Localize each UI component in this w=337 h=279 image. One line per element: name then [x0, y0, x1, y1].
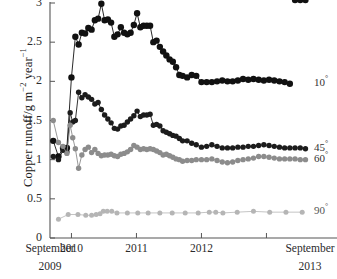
- data-point: [76, 90, 81, 95]
- data-point: [235, 144, 240, 149]
- data-point: [220, 210, 225, 215]
- data-point: [256, 143, 261, 148]
- degree-symbol-icon: °: [325, 150, 328, 159]
- data-point: [134, 10, 140, 16]
- x-tick-label-2012-3: 2012: [159, 242, 243, 254]
- data-point: [170, 59, 176, 65]
- data-point: [282, 145, 287, 150]
- data-point: [207, 210, 212, 215]
- x-tick-label-september-4: September: [268, 242, 337, 254]
- data-point: [204, 157, 209, 162]
- data-point: [214, 158, 219, 163]
- y-tick-label-2: 2: [14, 73, 42, 88]
- data-point: [50, 138, 56, 144]
- series-label-text-60: 60: [314, 152, 325, 164]
- data-point: [272, 144, 277, 149]
- y-tick-label-3: 3: [14, 0, 42, 10]
- data-point: [88, 26, 94, 32]
- data-point: [230, 159, 235, 164]
- data-point: [118, 24, 124, 30]
- y-tick-label-2.5: 2.5: [14, 34, 42, 49]
- data-point: [72, 33, 78, 39]
- data-point: [302, 0, 308, 3]
- y-tick-label-1.5: 1.5: [14, 113, 42, 128]
- data-point: [99, 107, 104, 112]
- data-point: [79, 152, 84, 157]
- series-label-text-90: 90: [314, 204, 325, 216]
- series-line-45: [53, 92, 305, 159]
- data-point: [300, 210, 305, 215]
- data-point: [76, 166, 81, 171]
- series-label-90: 90°: [314, 204, 328, 216]
- data-point: [147, 23, 153, 29]
- data-point: [235, 158, 240, 163]
- data-point: [287, 145, 292, 150]
- data-point: [266, 143, 271, 148]
- data-point: [131, 113, 136, 118]
- data-point: [146, 210, 151, 215]
- data-point: [194, 157, 199, 162]
- data-point: [283, 210, 288, 215]
- data-point: [235, 210, 240, 215]
- degree-symbol-icon: °: [325, 139, 328, 148]
- data-point: [56, 140, 61, 145]
- data-point: [125, 210, 130, 215]
- y-tick-label-0.5: 0.5: [14, 191, 42, 206]
- data-series: [50, 0, 309, 222]
- data-point: [56, 157, 61, 162]
- data-point: [230, 145, 235, 150]
- data-point: [282, 156, 287, 161]
- data-point: [147, 112, 152, 117]
- data-point: [51, 118, 56, 123]
- data-point: [220, 145, 225, 150]
- data-point: [83, 213, 88, 218]
- data-point: [277, 156, 282, 161]
- data-point: [189, 158, 194, 163]
- data-point: [209, 142, 214, 147]
- data-point: [67, 123, 72, 128]
- data-point: [292, 145, 297, 150]
- data-point: [272, 155, 277, 160]
- data-point: [75, 41, 81, 47]
- data-point: [266, 155, 271, 160]
- data-point: [225, 160, 230, 165]
- series-label-text-10: 10: [314, 76, 325, 88]
- data-point: [267, 210, 272, 215]
- data-point: [199, 157, 204, 162]
- data-point: [89, 97, 94, 102]
- series-90: [56, 209, 305, 222]
- data-point: [225, 145, 230, 150]
- data-point: [251, 155, 256, 160]
- data-point: [214, 144, 219, 149]
- data-point: [240, 144, 245, 149]
- axes: [50, 2, 337, 238]
- data-point: [157, 210, 162, 215]
- data-point: [251, 209, 256, 214]
- series-label-10: 10°: [314, 76, 328, 88]
- data-point: [213, 210, 218, 215]
- data-point: [193, 73, 199, 79]
- data-point: [256, 154, 261, 159]
- data-point: [73, 118, 78, 123]
- data-point: [303, 146, 308, 151]
- data-point: [95, 15, 101, 21]
- data-point: [153, 37, 159, 43]
- data-point: [82, 30, 88, 36]
- data-point: [127, 30, 133, 36]
- data-point: [157, 123, 162, 128]
- data-point: [196, 210, 201, 215]
- data-point: [67, 110, 72, 115]
- data-point: [170, 210, 175, 215]
- data-point: [303, 157, 308, 162]
- data-point: [114, 31, 120, 37]
- data-point: [109, 209, 114, 214]
- data-point: [292, 156, 297, 161]
- data-point: [60, 144, 65, 149]
- data-point: [66, 212, 71, 217]
- data-point: [246, 144, 251, 149]
- data-point: [89, 213, 94, 218]
- data-point: [114, 210, 119, 215]
- data-point: [86, 144, 91, 149]
- y-tick-label-1: 1: [14, 152, 42, 167]
- x-tick-sublabel-2009: 2009: [8, 260, 92, 272]
